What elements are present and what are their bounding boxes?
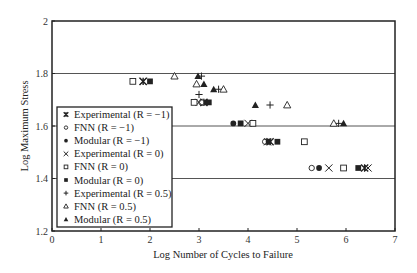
open-square-marker-icon [341, 165, 347, 171]
legend-item: FNN (R = 0) [64, 161, 128, 173]
y-tick-label: 1.8 [36, 68, 49, 79]
filled-circle-marker-icon [316, 165, 322, 171]
asterisk-marker-icon [361, 164, 368, 171]
legend-item: Modular (R = 0) [64, 175, 144, 187]
y-tick-label: 2 [43, 16, 48, 27]
filled-square-marker-icon [355, 165, 361, 171]
legend-item-label: FNN (R = 0) [74, 161, 129, 173]
plus-marker-icon [266, 101, 273, 108]
legend-item-label: Experimental (R = −1) [74, 109, 170, 121]
legend-item: Modular (R = 0.5) [64, 214, 152, 226]
legend-item-label: FNN (R = −1) [74, 122, 134, 134]
chart: 01234567 1.21.41.61.82 Log Number of Cyc… [0, 0, 417, 273]
open-square-marker-icon [250, 120, 256, 126]
x-tick-label: 4 [246, 234, 251, 245]
filled-circle-marker-icon [266, 139, 272, 145]
legend-item-label: FNN (R = 0.5) [74, 201, 136, 213]
open-circle-marker-icon [309, 165, 314, 170]
x-marker-icon [325, 164, 332, 171]
filled-circle-marker-icon [230, 120, 236, 126]
x-tick-label: 2 [148, 234, 153, 245]
open-square-marker-icon [64, 165, 68, 169]
filled-triangle-marker-icon [252, 101, 259, 107]
open-circle-marker-icon [64, 126, 67, 129]
x-tick-label: 7 [393, 234, 398, 245]
legend: Experimental (R = −1)FNN (R = −1)Modular… [57, 107, 172, 227]
y-tick-label: 1.2 [36, 226, 49, 237]
filled-circle-marker-icon [64, 139, 68, 143]
x-tick-label: 5 [295, 234, 300, 245]
x-tick-label: 3 [197, 234, 202, 245]
filled-square-marker-icon [147, 78, 153, 84]
plus-marker-icon [195, 91, 202, 98]
filled-square-marker-icon [275, 139, 281, 145]
legend-item: Experimental (R = 0) [64, 148, 164, 160]
filled-square-marker-icon [64, 178, 68, 182]
legend-item-label: Modular (R = 0.5) [74, 214, 152, 226]
legend-item-label: Modular (R = 0) [74, 175, 144, 187]
legend-item-label: Modular (R = −1) [74, 135, 150, 147]
open-square-marker-icon [301, 139, 307, 145]
legend-item: Modular (R = −1) [64, 135, 149, 147]
x-tick-label: 1 [99, 234, 104, 245]
filled-triangle-marker-icon [200, 80, 207, 86]
x-tick-label: 6 [344, 234, 349, 245]
y-axis-title: Log Maximum Stress [19, 81, 30, 172]
x-axis-title: Log Number of Cycles to Failure [153, 249, 293, 260]
x-tick-label: 0 [50, 234, 55, 245]
legend-item-label: Experimental (R = 0) [74, 148, 164, 160]
open-square-marker-icon [130, 78, 136, 84]
legend-item: Experimental (R = −1) [64, 109, 170, 121]
legend-item: FNN (R = −1) [64, 122, 134, 134]
open-square-marker-icon [191, 99, 197, 105]
open-triangle-marker-icon [284, 101, 291, 107]
legend-item: FNN (R = 0.5) [64, 201, 137, 213]
y-tick-label: 1.4 [36, 173, 49, 184]
filled-square-marker-icon [206, 99, 212, 105]
filled-square-marker-icon [238, 120, 244, 126]
y-tick-label: 1.6 [36, 121, 49, 132]
legend-item: Experimental (R = 0.5) [64, 188, 172, 200]
legend-item-label: Experimental (R = 0.5) [74, 188, 172, 200]
open-triangle-marker-icon [193, 80, 200, 86]
